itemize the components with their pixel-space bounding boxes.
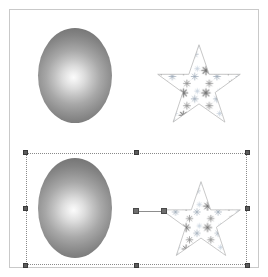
artboard[interactable] <box>10 10 258 267</box>
canvas-frame <box>9 9 259 268</box>
drawing-app-window <box>0 0 268 277</box>
gradient-start-handle[interactable] <box>133 208 139 214</box>
ellipse-gradient-fill <box>38 28 112 123</box>
resize-handle-middle-left[interactable] <box>23 206 28 211</box>
star-unselected[interactable] <box>156 43 242 129</box>
ellipse-unselected[interactable] <box>38 28 112 123</box>
resize-handle-top-left[interactable] <box>23 150 28 155</box>
gradient-end-handle[interactable] <box>161 208 167 214</box>
gradient-direction-line <box>136 211 164 212</box>
gradient-direction-control[interactable] <box>133 208 167 215</box>
resize-handle-top-right[interactable] <box>245 150 250 155</box>
resize-handle-bottom-center[interactable] <box>134 263 139 268</box>
resize-handle-bottom-left[interactable] <box>23 263 28 268</box>
resize-handle-middle-right[interactable] <box>245 206 250 211</box>
star-outline <box>158 45 241 122</box>
resize-handle-top-center[interactable] <box>134 150 139 155</box>
resize-handle-bottom-right[interactable] <box>245 263 250 268</box>
star-shape-svg <box>156 43 242 129</box>
